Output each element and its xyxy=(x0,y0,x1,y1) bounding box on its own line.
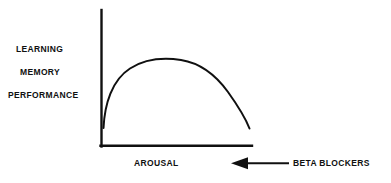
y-axis-label-group: LEARNING MEMORY PERFORMANCE xyxy=(8,44,100,113)
y-axis-label-performance: PERFORMANCE xyxy=(8,90,100,100)
x-axis-label-arousal: AROUSAL xyxy=(134,158,178,168)
annotation-label-beta-blockers: BETA BLOCKERS xyxy=(293,158,370,168)
y-axis-label-memory: MEMORY xyxy=(8,67,100,77)
annotation-arrow-head-icon xyxy=(231,157,248,169)
y-axis-label-learning: LEARNING xyxy=(8,44,100,54)
figure-canvas: LEARNING MEMORY PERFORMANCE AROUSAL BETA… xyxy=(0,0,391,183)
performance-curve xyxy=(104,59,250,129)
